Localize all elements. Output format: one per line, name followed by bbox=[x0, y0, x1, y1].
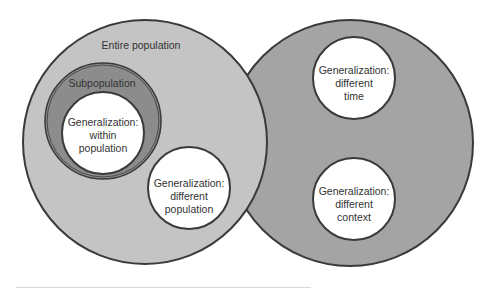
within-population-line-2: within bbox=[89, 129, 117, 141]
subpopulation-label: Subpopulation bbox=[68, 77, 135, 89]
different-time-line-3: time bbox=[344, 90, 364, 102]
different-population-line-2: different bbox=[170, 190, 208, 202]
different-context-line-3: context bbox=[337, 211, 371, 223]
different-context-line-1: Generalization: bbox=[319, 185, 390, 197]
different-population-line-1: Generalization: bbox=[154, 177, 225, 189]
different-population-line-3: population bbox=[165, 203, 214, 215]
different-context-line-2: different bbox=[335, 198, 373, 210]
within-population-line-1: Generalization: bbox=[68, 116, 139, 128]
entire-population-label: Entire population bbox=[102, 39, 181, 51]
different-time-line-2: different bbox=[335, 77, 373, 89]
different-time-line-1: Generalization: bbox=[319, 64, 390, 76]
generalization-diagram: Entire population Subpopulation Generali… bbox=[0, 0, 498, 288]
within-population-line-3: population bbox=[79, 142, 128, 154]
